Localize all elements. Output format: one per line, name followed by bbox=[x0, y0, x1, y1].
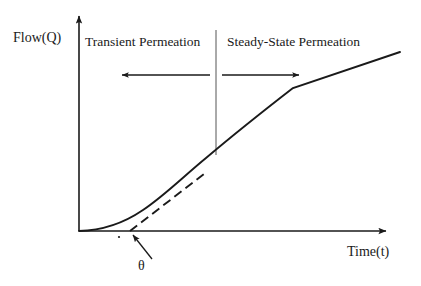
steady-state-tangent-line bbox=[130, 174, 204, 231]
x-axis-label: Time(t) bbox=[347, 245, 389, 259]
permeation-curve bbox=[79, 52, 400, 231]
transient-region-label: Transient Permeation bbox=[85, 35, 200, 49]
steady-state-region-label: Steady-State Permeation bbox=[227, 35, 360, 49]
intercept-dot bbox=[118, 236, 120, 238]
theta-angle-label: θ bbox=[138, 259, 145, 273]
permeation-diagram: Flow(Q) Time(t) Transient Permeation Ste… bbox=[0, 0, 421, 286]
y-axis-label: Flow(Q) bbox=[13, 31, 61, 45]
theta-pointer-arrow bbox=[133, 235, 152, 259]
